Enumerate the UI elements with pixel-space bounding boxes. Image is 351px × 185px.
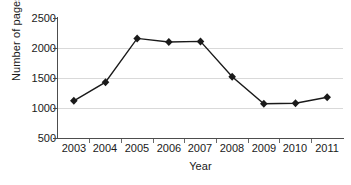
y-tick-label-1000: 1000 xyxy=(20,103,56,114)
data-point-2010 xyxy=(292,99,300,107)
x-tick-label-2005: 2005 xyxy=(120,143,154,154)
data-point-markers xyxy=(70,34,331,107)
y-axis-line xyxy=(57,17,58,139)
x-axis-line xyxy=(57,138,344,139)
data-point-2011 xyxy=(323,93,331,101)
x-tick-label-2009: 2009 xyxy=(247,143,281,154)
x-tick-label-2008: 2008 xyxy=(215,143,249,154)
x-axis-title: Year xyxy=(58,160,343,172)
data-series-line xyxy=(58,18,343,138)
plot-area xyxy=(58,18,343,138)
x-tick-label-2003: 2003 xyxy=(57,143,91,154)
x-tick-label-2007: 2007 xyxy=(183,143,217,154)
data-point-2006 xyxy=(165,38,173,46)
data-point-2003 xyxy=(70,97,78,105)
y-tick-label-1500: 1500 xyxy=(20,73,56,84)
x-tick-label-2010: 2010 xyxy=(278,143,312,154)
line-chart: Number of pages Year 500 1000 1500 2000 … xyxy=(0,0,351,185)
y-tick-label-2500: 2500 xyxy=(20,13,56,24)
x-tick-label-2006: 2006 xyxy=(152,143,186,154)
y-tick-label-2000: 2000 xyxy=(20,43,56,54)
y-tick-label-500: 500 xyxy=(20,133,56,144)
x-tick-label-2004: 2004 xyxy=(88,143,122,154)
x-tick-label-2011: 2011 xyxy=(310,143,344,154)
